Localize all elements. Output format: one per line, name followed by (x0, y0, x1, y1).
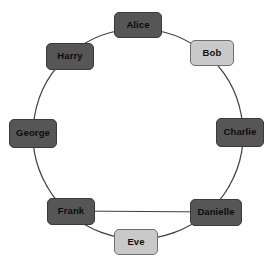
node-label-harry: Harry (57, 51, 82, 61)
graph-node-harry[interactable]: Harry (46, 43, 94, 70)
node-label-frank: Frank (58, 206, 84, 216)
node-label-george: George (16, 128, 50, 138)
ring-graph-diagram: AliceBobCharlieDanielleEveFrankGeorgeHar… (0, 0, 277, 268)
node-label-eve: Eve (127, 237, 144, 247)
graph-node-danielle[interactable]: Danielle (190, 199, 242, 226)
node-layer: AliceBobCharlieDanielleEveFrankGeorgeHar… (0, 0, 277, 268)
graph-node-george[interactable]: George (9, 119, 57, 148)
graph-node-charlie[interactable]: Charlie (216, 118, 264, 147)
graph-node-alice[interactable]: Alice (114, 12, 162, 38)
graph-node-frank[interactable]: Frank (47, 198, 95, 225)
node-label-alice: Alice (126, 20, 149, 30)
node-label-bob: Bob (203, 48, 222, 58)
graph-node-bob[interactable]: Bob (190, 40, 234, 66)
node-label-charlie: Charlie (224, 127, 257, 137)
graph-node-eve[interactable]: Eve (114, 229, 158, 255)
node-label-danielle: Danielle (197, 207, 234, 217)
